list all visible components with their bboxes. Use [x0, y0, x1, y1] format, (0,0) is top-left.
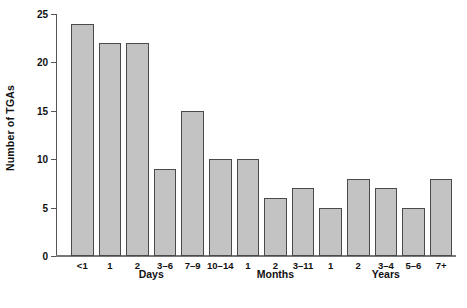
y-axis-tick-label: 25: [37, 9, 48, 20]
x-axis-tick-label: 5–6: [406, 260, 422, 271]
bar-chart-figure: Number of TGAs 0510152025 <1123–67–910–1…: [0, 0, 467, 308]
x-axis-tick-label: 2: [356, 260, 361, 271]
bar: [99, 43, 122, 256]
bar: [402, 208, 425, 256]
y-axis-tick-label: 15: [37, 105, 48, 116]
x-axis-tick-label: 3–11: [293, 260, 314, 271]
bar: [126, 43, 149, 256]
x-axis-tick-label: 1: [328, 260, 333, 271]
y-axis-tick-label: 10: [37, 154, 48, 165]
x-axis-tick-label: <1: [77, 260, 88, 271]
x-axis-tick-label: 1: [107, 260, 112, 271]
bar: [154, 169, 177, 256]
bar: [71, 24, 94, 256]
y-axis-tick-label: 20: [37, 57, 48, 68]
bar: [264, 198, 287, 256]
x-axis-group-label: Months: [257, 268, 294, 280]
plot-area: 0510152025 <1123–67–910–14123–11123–45–6…: [56, 14, 456, 256]
y-axis-tick-mark: [51, 256, 56, 257]
y-axis-title: Number of TGAs: [0, 0, 20, 256]
y-axis-title-text: Number of TGAs: [4, 85, 16, 171]
bar: [181, 111, 204, 256]
x-axis-group-label: Years: [372, 268, 400, 280]
bar: [237, 159, 260, 256]
x-axis-tick-label: 7–9: [185, 260, 201, 271]
bar: [375, 188, 398, 256]
bar: [292, 188, 315, 256]
bar: [430, 179, 453, 256]
y-axis-tick-label: 0: [42, 251, 48, 262]
bar: [319, 208, 342, 256]
x-axis-group-label: Days: [139, 268, 164, 280]
y-axis-tick-label: 5: [42, 202, 48, 213]
bar: [209, 159, 232, 256]
x-axis-tick-label: 7+: [436, 260, 447, 271]
bar: [347, 179, 370, 256]
x-axis-tick-label: 1: [245, 260, 250, 271]
bars-container: [56, 14, 456, 256]
x-axis-tick-label: 10–14: [207, 260, 233, 271]
